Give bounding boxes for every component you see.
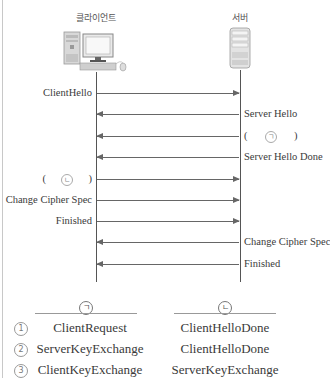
paren-close: ) (294, 130, 298, 141)
paren-open: ( (43, 173, 47, 184)
arrowhead-right-icon (233, 90, 240, 96)
message-label-server-change-cipher-spec: Change Cipher Spec (244, 236, 330, 248)
option-3-value-b: ServerKeyExchange (165, 362, 285, 378)
option-3-value-a: ClientKeyExchange (30, 362, 150, 378)
column-rule-a (35, 313, 137, 314)
answer-option-2[interactable]: 2 ServerKeyExchange ClientHelloDone (0, 341, 330, 361)
option-number-3: 3 (14, 364, 28, 378)
arrowhead-right-icon (233, 218, 240, 224)
message-label-blank-a: ( ㄱ ) (244, 130, 298, 143)
client-label: 클라이언트 (66, 11, 126, 24)
arrowhead-left-icon (96, 111, 103, 117)
arrowhead-right-icon (233, 197, 240, 203)
message-arrow-client-change-cipher-spec (97, 200, 239, 201)
option-1-value-b: ClientHelloDone (165, 320, 285, 336)
answer-option-3[interactable]: 3 ClientKeyExchange ServerKeyExchange (0, 362, 330, 378)
paren-open: ( (244, 130, 248, 141)
message-arrow-blank-a (97, 136, 239, 137)
desktop-computer-icon (63, 30, 131, 72)
message-label-client-hello: ClientHello (43, 87, 92, 99)
blank-a-marker: ㄱ (265, 131, 277, 143)
option-number-2: 2 (14, 343, 28, 357)
column-rule-b (174, 313, 276, 314)
blank-b-marker: ㄴ (61, 174, 73, 186)
server-label: 서버 (222, 11, 258, 24)
server-lifeline (240, 70, 241, 282)
message-label-server-hello: Server Hello (244, 108, 297, 120)
option-1-value-a: ClientRequest (30, 320, 150, 336)
arrowhead-right-icon (233, 176, 240, 182)
message-label-client-change-cipher-spec: Change Cipher Spec (6, 194, 92, 206)
paren-close: ) (89, 173, 93, 184)
message-arrow-server-change-cipher-spec (97, 242, 239, 243)
message-label-server-hello-done: Server Hello Done (244, 151, 323, 163)
server-tower-icon (229, 26, 251, 70)
option-2-value-a: ServerKeyExchange (30, 341, 150, 357)
message-label-blank-b: ( ㄴ ) (43, 173, 93, 186)
message-arrow-client-hello (97, 93, 239, 94)
arrowhead-left-icon (96, 133, 103, 139)
answer-option-1[interactable]: 1 ClientRequest ClientHelloDone (0, 320, 330, 340)
arrowhead-left-icon (96, 154, 103, 160)
message-arrow-server-finished (97, 264, 239, 265)
message-arrow-client-finished (97, 221, 239, 222)
option-number-1: 1 (14, 322, 28, 336)
arrowhead-left-icon (96, 239, 103, 245)
arrowhead-left-icon (96, 261, 103, 267)
message-arrow-server-hello-done (97, 157, 239, 158)
message-label-client-finished: Finished (56, 215, 92, 227)
message-arrow-blank-b (97, 179, 239, 180)
message-label-server-finished: Finished (244, 258, 280, 270)
message-arrow-server-hello (97, 114, 239, 115)
option-2-value-b: ClientHelloDone (165, 341, 285, 357)
client-lifeline (96, 72, 97, 282)
